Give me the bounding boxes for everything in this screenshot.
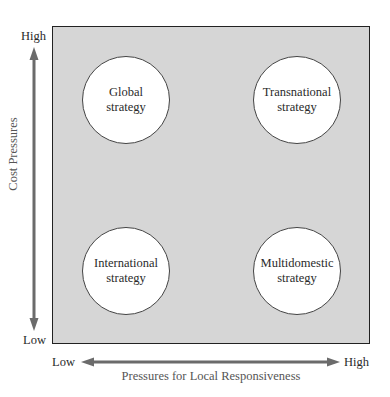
quadrant-label-line2: strategy: [261, 271, 334, 286]
x-axis-arrow: [81, 358, 340, 367]
quadrant-global-strategy: Global strategy: [82, 56, 170, 144]
x-axis-title: Pressures for Local Responsiveness: [52, 369, 370, 384]
y-axis-title: Cost Pressures: [6, 94, 22, 214]
quadrant-label-line1: Global: [106, 85, 146, 100]
y-axis-arrow: [30, 47, 39, 331]
quadrant-multidomestic-strategy: Multidomestic strategy: [253, 227, 341, 315]
y-axis-high-label: High: [21, 29, 46, 44]
quadrant-label-line1: Transnational: [263, 85, 331, 100]
x-axis-high-label: High: [344, 355, 369, 370]
quadrant-international-strategy: International strategy: [82, 227, 170, 315]
quadrant-label-line2: strategy: [263, 100, 331, 115]
quadrant-label-line2: strategy: [106, 100, 146, 115]
quadrant-transnational-strategy: Transnational strategy: [253, 56, 341, 144]
x-axis-low-label: Low: [52, 355, 75, 370]
quadrant-label-line2: strategy: [94, 271, 158, 286]
quadrant-label-line1: Multidomestic: [261, 256, 334, 271]
strategy-matrix: Global strategy Transnational strategy I…: [52, 26, 370, 344]
y-axis-low-label: Low: [23, 333, 46, 348]
quadrant-label-line1: International: [94, 256, 158, 271]
